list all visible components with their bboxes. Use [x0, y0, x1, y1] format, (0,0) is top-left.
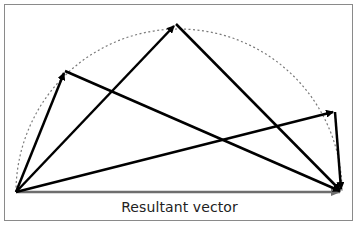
resultant-vector-label: Resultant vector	[0, 199, 359, 215]
vector-a-to-end	[65, 71, 340, 191]
vector-c-to-end	[335, 112, 341, 189]
vector-origin-to-c	[16, 112, 333, 192]
vector-origin-to-a	[16, 73, 64, 192]
dotted-arc	[16, 29, 342, 192]
vector-diagram	[0, 0, 359, 225]
